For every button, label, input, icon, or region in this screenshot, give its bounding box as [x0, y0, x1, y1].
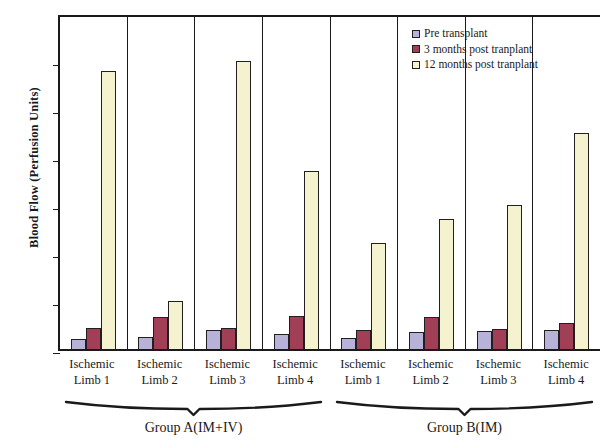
legend-item: Pre transplant [412, 26, 538, 42]
bar-cluster [60, 17, 127, 349]
group-labels: Group A(IM+IV)Group B(IM) [58, 420, 600, 436]
bar [544, 330, 559, 349]
x-axis-label-line: Limb 4 [261, 372, 329, 388]
legend-label: 12 months post tranplant [424, 57, 538, 73]
x-axis-label-line: Limb 4 [532, 372, 600, 388]
x-axis-label-line: Limb 2 [397, 372, 465, 388]
bar [71, 339, 86, 349]
legend-item: 3 months post tranplant [412, 42, 538, 58]
limb-column [128, 17, 196, 349]
y-axis-tick [53, 353, 60, 354]
bar [168, 301, 183, 349]
group-brace-icon [64, 400, 323, 418]
bar [289, 316, 304, 349]
bar-cluster [195, 17, 262, 349]
x-axis-label: IschemicLimb 2 [126, 356, 194, 398]
x-axis-labels: IschemicLimb 1IschemicLimb 2IschemicLimb… [58, 356, 600, 398]
limb-column [331, 17, 399, 349]
bar [477, 331, 492, 349]
group-brace-icon [335, 400, 594, 418]
x-axis-label-line: Limb 1 [329, 372, 397, 388]
bar [221, 328, 236, 349]
x-axis-label: IschemicLimb 3 [465, 356, 533, 398]
y-axis-tick [53, 113, 60, 114]
bar [409, 332, 424, 349]
y-axis-tick [53, 305, 60, 306]
legend-label: 3 months post tranplant [424, 42, 532, 58]
bar [236, 61, 251, 349]
bar-cluster [533, 17, 600, 349]
bar [492, 329, 507, 349]
x-axis-label: IschemicLimb 4 [261, 356, 329, 398]
bar [86, 328, 101, 349]
y-axis-title: Blood Flow (Perfusion Units) [27, 38, 42, 298]
x-axis-label-line: Limb 3 [465, 372, 533, 388]
x-axis-label: IschemicLimb 1 [329, 356, 397, 398]
x-axis-label-line: Ischemic [126, 356, 194, 372]
bar [304, 171, 319, 349]
x-axis-label-line: Ischemic [532, 356, 600, 372]
legend-item: 12 months post tranplant [412, 57, 538, 73]
bar-cluster [263, 17, 330, 349]
x-axis-label-line: Ischemic [261, 356, 329, 372]
x-axis-label-line: Limb 1 [58, 372, 126, 388]
x-axis-label-line: Ischemic [397, 356, 465, 372]
x-axis-label-line: Limb 3 [194, 372, 262, 388]
limb-column [533, 17, 600, 349]
bar [206, 330, 221, 349]
legend-swatch-icon [412, 61, 420, 69]
bar [507, 205, 522, 349]
bar-chart: Blood Flow (Perfusion Units) 05010015020… [0, 0, 600, 448]
bar [424, 317, 439, 349]
bar [153, 317, 168, 349]
chart-legend: Pre transplant3 months post tranplant12 … [412, 26, 538, 73]
limb-column [60, 17, 128, 349]
bar-cluster [128, 17, 195, 349]
group-braces [58, 400, 600, 420]
group-label: Group B(IM) [329, 420, 600, 436]
bar [574, 133, 589, 349]
x-axis-label: IschemicLimb 4 [532, 356, 600, 398]
bar-cluster [331, 17, 398, 349]
bar [274, 334, 289, 349]
legend-swatch-icon [412, 45, 420, 53]
x-axis-label-line: Ischemic [329, 356, 397, 372]
x-axis-label: IschemicLimb 1 [58, 356, 126, 398]
x-axis-label-line: Limb 2 [126, 372, 194, 388]
y-axis-tick [53, 257, 60, 258]
bar [371, 243, 386, 349]
bar [439, 219, 454, 349]
x-axis-label-line: Ischemic [58, 356, 126, 372]
x-axis-label: IschemicLimb 2 [397, 356, 465, 398]
bar [559, 323, 574, 349]
bar [341, 338, 356, 349]
y-axis-tick [53, 209, 60, 210]
group-label: Group A(IM+IV) [58, 420, 329, 436]
bar [138, 337, 153, 349]
x-axis-label: IschemicLimb 3 [194, 356, 262, 398]
x-axis-label-line: Ischemic [465, 356, 533, 372]
limb-column [195, 17, 263, 349]
y-axis-tick [53, 161, 60, 162]
bar [101, 71, 116, 349]
y-axis-tick [53, 65, 60, 66]
x-axis-label-line: Ischemic [194, 356, 262, 372]
limb-column [263, 17, 331, 349]
bar [356, 330, 371, 349]
legend-label: Pre transplant [424, 26, 488, 42]
legend-swatch-icon [412, 30, 420, 38]
